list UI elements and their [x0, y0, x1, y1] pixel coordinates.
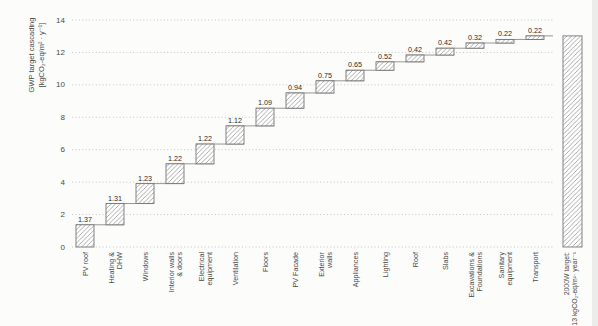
waterfall-bar — [406, 55, 424, 62]
y-axis-title-line: [kgCO₂-eq/m² · y⁻¹] — [37, 23, 46, 88]
y-tick-label: 8 — [61, 113, 66, 122]
bar-value-label: 0.65 — [348, 60, 362, 69]
gwp-waterfall-chart: 02468101214GWP target cascading[kgCO₂-eq… — [0, 0, 598, 326]
bar-value-label: 0.22 — [528, 26, 542, 35]
bar-value-label: 0.22 — [498, 29, 512, 38]
category-label: Foundations — [475, 252, 484, 292]
waterfall-bar — [136, 184, 154, 204]
waterfall-bar — [526, 36, 544, 40]
y-tick-label: 6 — [61, 145, 66, 154]
bar-value-label: 1.12 — [228, 116, 242, 125]
category-label: equipment — [205, 252, 214, 286]
bar-value-label: 1.22 — [168, 154, 182, 163]
waterfall-bar — [466, 43, 484, 48]
waterfall-bar — [436, 48, 454, 55]
y-tick-label: 10 — [56, 80, 65, 89]
bar-value-label: 0.94 — [288, 83, 302, 92]
bar-value-label: 0.42 — [408, 45, 422, 54]
y-tick-label: 2 — [61, 210, 66, 219]
bar-value-label: 1.23 — [138, 174, 152, 183]
total-bar-label: 13 kgCO₂-eq/m²· year⁻¹ — [571, 251, 579, 325]
bar-value-label: 0.42 — [438, 38, 452, 47]
waterfall-bar — [226, 126, 244, 144]
waterfall-bar — [196, 144, 214, 164]
category-label: Floors — [261, 252, 270, 272]
category-label: Lighting — [381, 252, 390, 277]
waterfall-bar — [316, 81, 334, 93]
y-tick-label: 14 — [56, 16, 65, 25]
total-bar-label: 2000W target: — [563, 252, 571, 295]
bar-value-label: 0.52 — [378, 52, 392, 61]
waterfall-bar — [286, 93, 304, 108]
bar-value-label: 1.09 — [258, 98, 272, 107]
category-label: Roof — [411, 252, 420, 267]
category-label: Appliances — [351, 252, 360, 288]
category-label: Transport — [531, 252, 540, 283]
scan-edge-shadow — [592, 0, 598, 326]
category-label: PV roof — [81, 252, 90, 276]
waterfall-bar — [166, 164, 184, 184]
category-label: Slabs — [441, 252, 450, 270]
waterfall-bar — [256, 108, 274, 126]
category-label: DHW — [115, 252, 124, 269]
waterfall-bar — [376, 62, 394, 70]
y-axis-title-line: GWP target cascading — [27, 18, 36, 93]
bar-value-label: 0.32 — [468, 33, 482, 42]
waterfall-bar — [346, 70, 364, 81]
category-label: walls — [325, 252, 334, 269]
y-tick-label: 0 — [61, 243, 66, 252]
waterfall-bar — [496, 39, 514, 43]
category-label: PV Facade — [291, 252, 300, 288]
category-label: & doors — [175, 252, 184, 277]
y-tick-label: 4 — [61, 178, 66, 187]
bar-value-label: 1.22 — [198, 134, 212, 143]
category-label: Ventilation — [231, 252, 240, 285]
y-tick-label: 12 — [56, 48, 65, 57]
gwp-waterfall-figure: 02468101214GWP target cascading[kgCO₂-eq… — [0, 0, 598, 326]
bar-value-label: 1.31 — [108, 194, 122, 203]
bar-value-label: 0.75 — [318, 71, 332, 80]
total-target-bar — [563, 36, 582, 247]
waterfall-bar — [106, 204, 124, 225]
category-label: Windows — [141, 252, 150, 282]
waterfall-bar — [76, 225, 94, 247]
bar-value-label: 1.37 — [78, 215, 92, 224]
category-label: equipment — [505, 252, 514, 286]
